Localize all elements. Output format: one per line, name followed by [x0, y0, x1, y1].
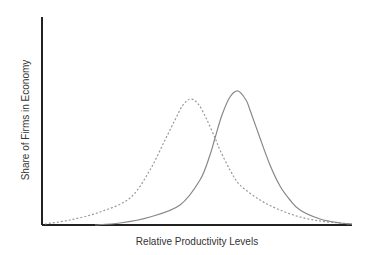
chart-canvas [0, 0, 372, 255]
dashed-distribution-curve [45, 99, 352, 224]
y-axis-label: Share of Firms in Economy [20, 60, 31, 181]
x-axis-label: Relative Productivity Levels [136, 236, 258, 247]
